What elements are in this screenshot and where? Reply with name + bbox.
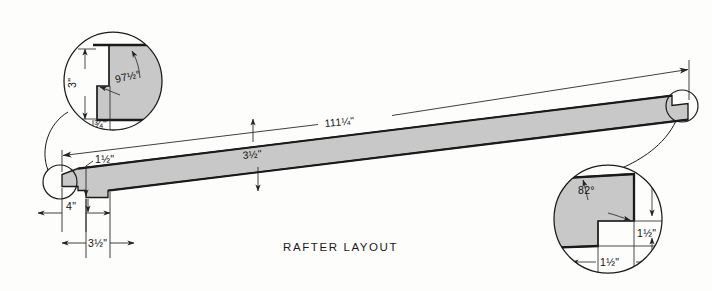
- rafter-layout-svg: 111¼" 3½" 1½" 4": [0, 0, 712, 291]
- seat-cut-label: 1½": [95, 153, 114, 165]
- detail-right-angle-label: 82°: [578, 184, 595, 196]
- detail-right-horizontal-label: 1½": [600, 256, 619, 268]
- rafter-layout-drawing: 111¼" 3½" 1½" 4": [0, 0, 712, 291]
- detail-left-horizontal-label: ¾": [94, 118, 107, 130]
- rafter-depth-label: 3½": [242, 147, 262, 161]
- heel-width-label: 3½": [88, 237, 107, 249]
- detail-right-vertical-label: 1½": [637, 227, 656, 239]
- drawing-title: RAFTER LAYOUT: [283, 241, 398, 253]
- tail-length-label: 4": [66, 200, 76, 212]
- detail-left-vertical-label: 3": [66, 78, 78, 88]
